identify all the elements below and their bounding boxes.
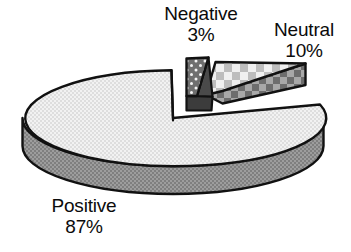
pie-label-neutral-name: Neutral <box>258 20 350 41</box>
pie-slice-negative <box>187 58 213 111</box>
pie-slice-positive-notch-wall <box>172 70 174 120</box>
pie-label-positive-name: Positive <box>23 196 145 217</box>
pie-slice-neutral <box>206 62 306 104</box>
pie-label-positive-value: 87% <box>23 217 145 238</box>
pie-label-positive: Positive 87% <box>23 196 145 237</box>
pie-slice-negative-side <box>187 96 213 111</box>
pie-chart: Negative 3% Neutral 10% Positive 87% <box>0 0 351 252</box>
pie-label-negative-value: 3% <box>148 25 254 46</box>
pie-label-neutral: Neutral 10% <box>258 20 350 61</box>
pie-label-negative: Negative 3% <box>148 4 254 45</box>
pie-label-neutral-value: 10% <box>258 41 350 62</box>
pie-label-negative-name: Negative <box>148 4 254 25</box>
